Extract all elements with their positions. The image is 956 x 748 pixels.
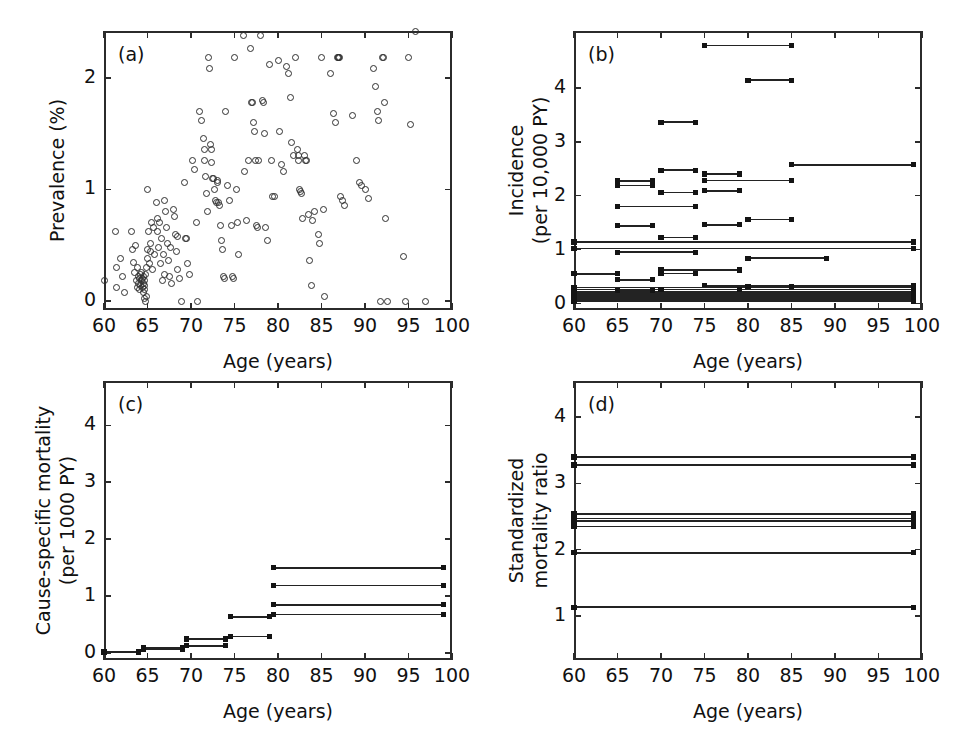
data-segment bbox=[574, 526, 913, 528]
data-segment bbox=[574, 606, 913, 608]
data-endpoint-marker bbox=[571, 454, 576, 459]
yaxis-title-d-line1: Standardized bbox=[505, 381, 527, 660]
data-endpoint-marker bbox=[571, 462, 576, 467]
data-segment bbox=[574, 464, 913, 466]
xtick-top-d-80 bbox=[747, 381, 749, 388]
panel-label-d: (d) bbox=[588, 393, 615, 415]
yaxis-title-d-line2: mortality ratio bbox=[529, 381, 551, 660]
data-endpoint-marker bbox=[911, 462, 916, 467]
xtick-top-d-70 bbox=[660, 381, 662, 388]
xticklabel-d-75: 75 bbox=[683, 664, 727, 686]
ytick-d-4 bbox=[574, 416, 581, 418]
xtick-top-d-65 bbox=[617, 381, 619, 388]
ytick-right-d-4 bbox=[915, 416, 922, 418]
xtick-d-60 bbox=[573, 653, 575, 660]
xticklabel-d-70: 70 bbox=[639, 664, 683, 686]
figure-canvas: 6065707580859095100012(a)Age (years)Prev… bbox=[0, 0, 956, 748]
xaxis-title-d: Age (years) bbox=[574, 700, 922, 722]
data-endpoint-marker bbox=[911, 524, 916, 529]
panel-d: 60657075808590951001234(d)Age (years)Sta… bbox=[0, 0, 956, 748]
data-endpoint-marker bbox=[911, 550, 916, 555]
data-segment bbox=[574, 513, 913, 515]
xtick-top-d-60 bbox=[573, 381, 575, 388]
data-endpoint-marker bbox=[911, 454, 916, 459]
data-endpoint-marker bbox=[571, 524, 576, 529]
xticklabel-d-95: 95 bbox=[857, 664, 901, 686]
ytick-right-d-2 bbox=[915, 549, 922, 551]
xtick-top-d-95 bbox=[878, 381, 880, 388]
xtick-top-d-85 bbox=[791, 381, 793, 388]
ytick-d-3 bbox=[574, 483, 581, 485]
data-segment bbox=[574, 552, 913, 554]
data-segment bbox=[574, 520, 913, 522]
xtick-d-70 bbox=[660, 653, 662, 660]
xtick-d-90 bbox=[834, 653, 836, 660]
data-segment bbox=[574, 456, 913, 458]
xtick-d-65 bbox=[617, 653, 619, 660]
xticklabel-d-65: 65 bbox=[596, 664, 640, 686]
xtick-top-d-75 bbox=[704, 381, 706, 388]
data-segment bbox=[574, 518, 913, 520]
xtick-d-75 bbox=[704, 653, 706, 660]
xtick-top-d-100 bbox=[921, 381, 923, 388]
xticklabel-d-100: 100 bbox=[900, 664, 944, 686]
xtick-d-80 bbox=[747, 653, 749, 660]
data-endpoint-marker bbox=[911, 605, 916, 610]
xtick-top-d-90 bbox=[834, 381, 836, 388]
xticklabel-d-85: 85 bbox=[770, 664, 814, 686]
ytick-d-1 bbox=[574, 615, 581, 617]
xtick-d-85 bbox=[791, 653, 793, 660]
data-endpoint-marker bbox=[571, 550, 576, 555]
ytick-right-d-1 bbox=[915, 615, 922, 617]
xticklabel-d-80: 80 bbox=[726, 664, 770, 686]
xtick-d-100 bbox=[921, 653, 923, 660]
ytick-right-d-3 bbox=[915, 483, 922, 485]
xticklabel-d-60: 60 bbox=[552, 664, 596, 686]
data-endpoint-marker bbox=[571, 605, 576, 610]
xtick-d-95 bbox=[878, 653, 880, 660]
xticklabel-d-90: 90 bbox=[813, 664, 857, 686]
